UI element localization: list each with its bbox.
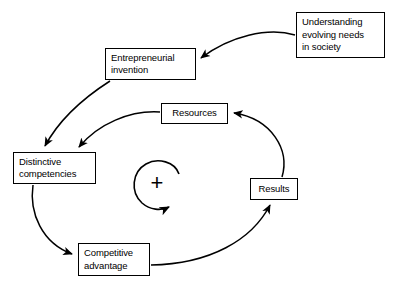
node-distinctive-label: Distinctive competencies [19,156,76,181]
node-results-label: Results [259,183,290,196]
loop-polarity-symbol: + [145,171,169,195]
node-entrepreneurial[interactable]: Entrepreneurial invention [105,48,196,80]
node-entrepreneurial-label: Entrepreneurial invention [111,52,174,77]
node-competitive-label: Competitive advantage [84,247,133,272]
node-understanding-label: Understanding evolving needs in society [302,16,364,54]
node-competitive[interactable]: Competitive advantage [78,243,150,276]
node-resources-label: Resources [172,107,217,120]
edge-entrepreneurial-to-distinctive [45,81,110,146]
edge-results-to-resources [234,113,284,177]
edge-understanding-to-entrepreneurial [201,32,295,58]
node-distinctive[interactable]: Distinctive competencies [13,152,96,184]
edge-distinctive-to-competitive [32,185,72,254]
edge-resources-to-distinctive [79,112,160,147]
node-resources[interactable]: Resources [161,103,228,124]
node-understanding[interactable]: Understanding evolving needs in society [296,12,385,58]
diagram-canvas: + Understanding evolving needs in societ… [0,0,395,286]
node-results[interactable]: Results [250,178,298,200]
